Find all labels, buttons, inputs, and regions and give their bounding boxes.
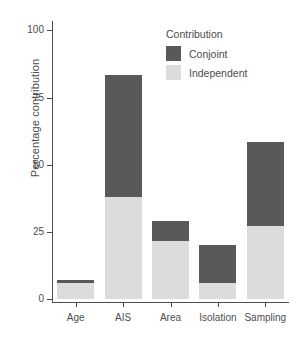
- y-axis-tick-label: 50: [4, 160, 44, 170]
- legend-title: Contribution: [166, 28, 247, 40]
- bar-segment-independent: [152, 241, 189, 299]
- x-axis-tick-label: Age: [67, 312, 85, 323]
- legend-label-conjoint: Conjoint: [189, 48, 228, 60]
- bar-segment-independent: [57, 283, 94, 299]
- bar-segment-independent: [247, 226, 284, 299]
- legend-label-independent: Independent: [189, 67, 247, 79]
- y-axis-tick-label: 25: [4, 227, 44, 237]
- bar-segment-independent: [105, 197, 142, 299]
- legend-swatch-independent-icon: [166, 65, 181, 80]
- x-axis-tick-label: AIS: [115, 312, 131, 323]
- bar-segment-conjoint: [105, 75, 142, 197]
- bar-segment-conjoint: [199, 245, 236, 283]
- x-axis-tick-label: Isolation: [199, 312, 236, 323]
- bar-segment-conjoint: [152, 221, 189, 241]
- chart-figure: Percentage contribution 0255075100 AgeAI…: [0, 0, 297, 350]
- bar-segment-conjoint: [57, 280, 94, 283]
- y-axis-tick-label: 100: [4, 25, 44, 35]
- bar-segment-conjoint: [247, 142, 284, 227]
- y-axis-title: Percentage contribution: [29, 13, 41, 223]
- y-axis-tick-label: 75: [4, 93, 44, 103]
- legend: Contribution Conjoint Independent: [166, 28, 247, 84]
- x-axis-tick-label: Area: [160, 312, 181, 323]
- legend-item-independent[interactable]: Independent: [166, 65, 247, 80]
- bar-segment-independent: [199, 283, 236, 299]
- legend-item-conjoint[interactable]: Conjoint: [166, 46, 247, 61]
- legend-swatch-conjoint-icon: [166, 46, 181, 61]
- y-axis-tick-label: 0: [4, 294, 44, 304]
- x-axis-tick-label: Sampling: [244, 312, 286, 323]
